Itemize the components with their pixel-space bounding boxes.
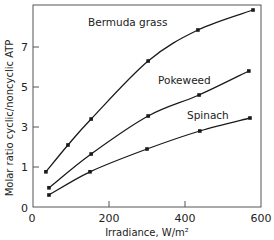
series-line-pokeweed bbox=[49, 71, 249, 188]
data-point bbox=[197, 93, 201, 97]
plot-frame bbox=[33, 5, 261, 207]
data-point bbox=[251, 8, 255, 12]
data-point bbox=[89, 152, 93, 156]
data-point bbox=[247, 69, 251, 73]
y-axis-ticks: 01357 bbox=[21, 41, 39, 215]
y-tick-label: 3 bbox=[21, 121, 28, 134]
y-tick-label: 5 bbox=[21, 81, 28, 94]
data-point bbox=[66, 143, 70, 147]
data-point bbox=[44, 170, 48, 174]
data-point bbox=[196, 28, 200, 32]
series-group: Bermuda grassPokeweedSpinach bbox=[44, 8, 255, 197]
data-point bbox=[47, 193, 51, 197]
x-tick-label: 600 bbox=[251, 212, 272, 225]
data-point bbox=[47, 186, 51, 190]
data-point bbox=[146, 59, 150, 63]
data-point bbox=[198, 129, 202, 133]
x-tick-label: 400 bbox=[175, 212, 196, 225]
plot-border bbox=[33, 5, 261, 207]
x-axis-ticks: 0200400600 bbox=[29, 201, 272, 225]
series-label-pokeweed: Pokeweed bbox=[158, 74, 211, 86]
series-line-spinach bbox=[49, 118, 250, 195]
y-tick-label: 7 bbox=[21, 41, 28, 54]
data-point bbox=[89, 117, 93, 121]
data-point bbox=[145, 147, 149, 151]
y-tick-label: 1 bbox=[21, 161, 28, 174]
x-tick-label: 0 bbox=[29, 212, 36, 225]
y-tick-label: 0 bbox=[21, 202, 28, 215]
series-label-spinach: Spinach bbox=[187, 109, 229, 121]
data-point bbox=[88, 170, 92, 174]
y-axis-label: Molar ratio cyclic/noncyclic ATP bbox=[4, 40, 15, 197]
data-point bbox=[248, 116, 252, 120]
x-axis-label: Irradiance, W/m² bbox=[105, 227, 189, 238]
chart: 0200400600 01357 Bermuda grassPokeweedSp… bbox=[0, 0, 274, 240]
series-label-bermuda-grass: Bermuda grass bbox=[88, 16, 167, 28]
x-tick-label: 200 bbox=[99, 212, 120, 225]
data-point bbox=[146, 114, 150, 118]
